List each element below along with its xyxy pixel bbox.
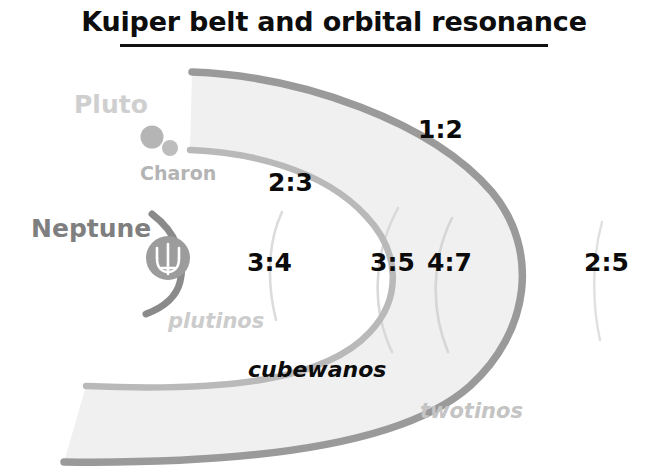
twotinos-label: twotinos bbox=[420, 401, 523, 422]
charon-label: Charon bbox=[140, 164, 216, 183]
charon-body bbox=[162, 140, 178, 156]
resonance-label-3-5: 3:5 bbox=[370, 250, 415, 275]
resonance-label-4-7: 4:7 bbox=[427, 250, 472, 275]
pluto-body bbox=[141, 126, 164, 149]
resonance-label-2-5: 2:5 bbox=[584, 250, 629, 275]
resonance-arc-2-5 bbox=[594, 222, 602, 340]
resonance-label-3-4: 3:4 bbox=[247, 250, 292, 275]
resonance-label-2-3: 2:3 bbox=[268, 170, 313, 195]
plutinos-label: plutinos bbox=[168, 311, 264, 332]
kuiper-belt-figure: Kuiper belt and orbital resonance bbox=[0, 0, 668, 475]
pluto-label: Pluto bbox=[74, 92, 148, 117]
cubewanos-label: cubewanos bbox=[248, 359, 386, 381]
resonance-label-1-2: 1:2 bbox=[418, 117, 463, 142]
neptune-label: Neptune bbox=[31, 216, 151, 241]
